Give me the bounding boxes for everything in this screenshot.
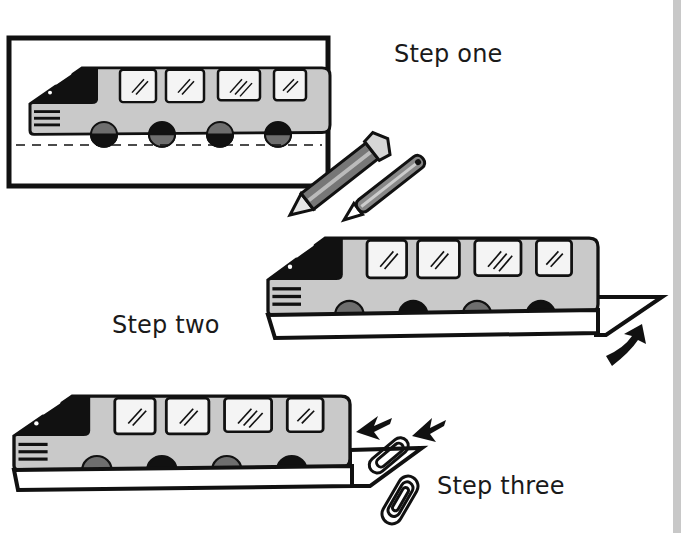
instruction-illustration <box>0 0 681 533</box>
step-three-label: Step three <box>437 472 565 500</box>
page-edge-strip <box>673 0 681 533</box>
step-one-label: Step one <box>394 40 503 68</box>
step-three-bus <box>14 396 422 490</box>
step-two-bus <box>268 238 662 338</box>
step-two-label: Step two <box>112 311 220 339</box>
step-one-frame <box>9 38 330 186</box>
